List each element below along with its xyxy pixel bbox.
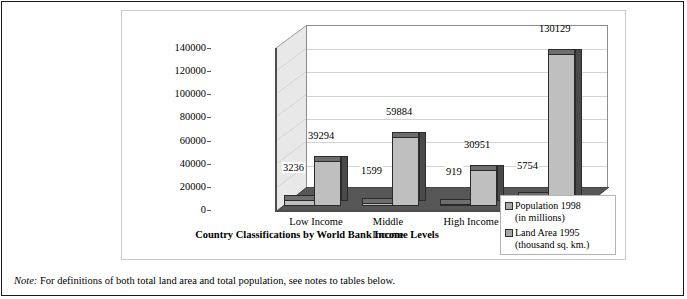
y-tick-60000: 60000 xyxy=(146,136,206,146)
bar-land-total xyxy=(548,49,575,206)
y-tick-100000: 100000 xyxy=(146,89,206,99)
value-label-land-middle-income: 59884 xyxy=(386,106,412,117)
figure-note: Note: For definitions of both total land… xyxy=(14,275,395,287)
figure-panel: 140000 120000 100000 80000 60000 40000 2… xyxy=(1,1,684,296)
bar-population-high-income xyxy=(440,199,471,206)
bar-top xyxy=(548,49,575,55)
tick-mark xyxy=(207,48,211,49)
bar-side xyxy=(575,49,582,201)
y-tick-120000: 120000 xyxy=(146,66,206,76)
left-wall xyxy=(276,25,307,211)
bar-top xyxy=(470,165,497,171)
bar-land-high-income xyxy=(470,165,497,206)
tick-mark xyxy=(207,94,211,95)
category-label-middle-income-line1: Middle xyxy=(353,216,423,228)
legend-label-population-line1: Population 1998 xyxy=(515,200,581,211)
value-label-population-low-income: 3236 xyxy=(282,162,305,173)
legend-swatch-land-area xyxy=(505,229,513,237)
tick-mark xyxy=(207,187,211,188)
value-label-population-high-income: 919 xyxy=(445,166,463,177)
legend-label-population-line2: (in millions) xyxy=(515,212,565,223)
bar-population-low-income xyxy=(284,195,315,206)
bar-top xyxy=(440,199,471,205)
tick-mark xyxy=(207,164,211,165)
category-label-low-income: Low Income xyxy=(271,216,361,228)
bar-side xyxy=(419,132,426,201)
bar-top xyxy=(362,198,393,204)
value-label-population-total: 5754 xyxy=(516,160,539,171)
tick-mark xyxy=(207,71,211,72)
bar-front xyxy=(548,54,575,206)
y-tick-0: 0 xyxy=(146,205,206,215)
bar-top xyxy=(284,195,315,201)
value-label-land-total: 130129 xyxy=(539,23,571,34)
legend-swatch-population xyxy=(505,202,513,210)
y-axis-labels: 140000 120000 100000 80000 60000 40000 2… xyxy=(146,10,206,210)
bar-top xyxy=(314,156,341,162)
tick-mark xyxy=(207,117,211,118)
legend-item-population[interactable]: Population 1998 (in millions) xyxy=(505,200,612,223)
bar-land-low-income xyxy=(314,156,341,206)
tick-mark xyxy=(207,141,211,142)
value-label-land-high-income: 30951 xyxy=(464,139,490,150)
bar-side xyxy=(341,156,348,201)
legend-label-population: Population 1998 (in millions) xyxy=(515,200,581,223)
bar-top xyxy=(392,132,419,138)
legend-label-land-area-line1: Land Area 1995 xyxy=(515,227,579,238)
bar-front xyxy=(314,161,341,206)
value-label-land-low-income: 39294 xyxy=(308,130,334,141)
bar-land-middle-income xyxy=(392,132,419,206)
y-axis xyxy=(275,48,277,211)
bar-front xyxy=(470,170,497,206)
tick-mark xyxy=(207,210,211,211)
legend-item-land-area[interactable]: Land Area 1995 (thousand sq. km.) xyxy=(505,227,612,250)
chart-title: Country Classifications by World Bank In… xyxy=(162,228,472,241)
y-tick-40000: 40000 xyxy=(146,159,206,169)
legend-label-land-area: Land Area 1995 (thousand sq. km.) xyxy=(515,227,589,250)
legend-label-land-area-line2: (thousand sq. km.) xyxy=(515,239,589,250)
chart-legend: Population 1998 (in millions) Land Area … xyxy=(500,195,616,255)
y-tick-80000: 80000 xyxy=(146,112,206,122)
y-tick-20000: 20000 xyxy=(146,182,206,192)
bar-population-middle-income xyxy=(362,198,393,206)
note-label: Note: xyxy=(14,275,37,286)
value-label-population-middle-income: 1599 xyxy=(360,165,383,176)
bar-front xyxy=(392,137,419,206)
y-tick-140000: 140000 xyxy=(146,43,206,53)
note-text: For definitions of both total land area … xyxy=(37,275,395,286)
